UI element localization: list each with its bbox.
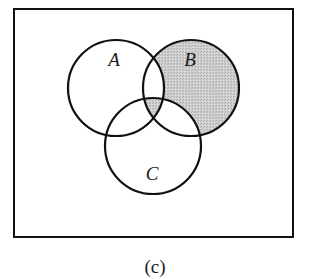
set-a-label: A [106, 49, 120, 70]
venn-diagram: A B C (c) [0, 0, 309, 279]
set-b-label: B [184, 49, 196, 70]
shaded-region-b-only [0, 0, 309, 279]
set-c-label: C [146, 163, 159, 184]
figure-caption: (c) [144, 256, 165, 278]
